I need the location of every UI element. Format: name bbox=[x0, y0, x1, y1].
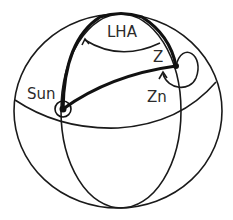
zn-arc bbox=[163, 52, 198, 87]
sun-label: Sun bbox=[27, 85, 56, 103]
lha-arc bbox=[85, 40, 160, 52]
azimuth-label: Zn bbox=[147, 88, 167, 106]
zenith-point-icon bbox=[173, 63, 179, 69]
meridian-ellipse bbox=[61, 14, 181, 208]
celestial-sphere-diagram: LHA Z Zn Sun bbox=[0, 0, 233, 220]
lha-label: LHA bbox=[107, 23, 138, 41]
lha-arrowhead-icon bbox=[82, 39, 89, 45]
sun-marker-dot-icon bbox=[60, 106, 67, 113]
zenith-label: Z bbox=[153, 48, 163, 66]
sphere-outline bbox=[14, 14, 222, 208]
diagram-canvas: LHA Z Zn Sun bbox=[0, 0, 233, 220]
